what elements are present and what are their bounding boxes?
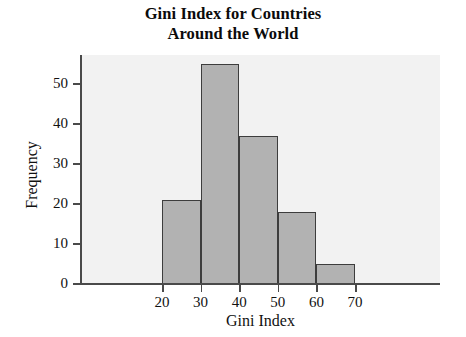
chart-title-line-2: Around the World: [0, 24, 466, 44]
x-tick-label-70: 70: [335, 294, 375, 310]
x-tick-label-30: 30: [181, 294, 221, 310]
x-tick-mark-50: [278, 284, 280, 292]
chart-title-line-1: Gini Index for Countries: [0, 4, 466, 24]
histogram-figure: Gini Index for Countries Around the Worl…: [0, 0, 466, 337]
chart-title: Gini Index for Countries Around the Worl…: [0, 4, 466, 44]
histogram-bar-60-70: [316, 264, 355, 284]
x-axis-label: Gini Index: [81, 312, 440, 330]
histogram-bar-40-50: [239, 136, 278, 284]
x-tick-mark-60: [316, 284, 318, 292]
x-tick-mark-70: [355, 284, 357, 292]
y-tick-label-0: 0: [28, 276, 68, 291]
x-tick-label-20: 20: [142, 294, 182, 310]
y-axis-label: Frequency: [24, 100, 40, 250]
y-tick-label-50: 50: [28, 76, 68, 91]
histogram-bar-20-30: [162, 200, 201, 284]
y-axis-line: [80, 55, 82, 285]
x-tick-label-50: 50: [258, 294, 298, 310]
x-tick-mark-40: [239, 284, 241, 292]
x-tick-mark-20: [162, 284, 164, 292]
histogram-bar-30-40: [201, 64, 240, 284]
x-tick-mark-30: [201, 284, 203, 292]
x-tick-label-40: 40: [219, 294, 259, 310]
histogram-bar-50-60: [278, 212, 317, 284]
x-tick-label-60: 60: [296, 294, 336, 310]
x-axis-line: [81, 283, 440, 285]
